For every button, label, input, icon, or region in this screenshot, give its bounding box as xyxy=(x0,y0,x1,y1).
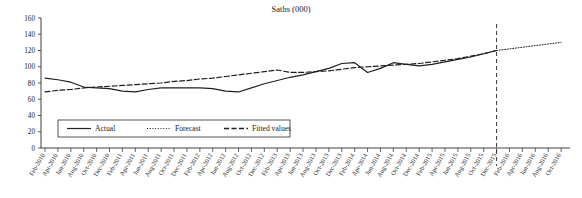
series-line-forecast xyxy=(497,42,562,50)
chart-legend: ActualForecastFitted values xyxy=(58,120,291,137)
y-tick-label: 120 xyxy=(24,47,35,55)
y-tick-label: 160 xyxy=(24,15,35,23)
y-tick-label: 140 xyxy=(24,31,35,39)
chart-title: Saths (000) xyxy=(272,4,311,14)
y-tick-label: 20 xyxy=(28,128,36,136)
legend-label-actual: Actual xyxy=(95,124,115,133)
y-tick-label: 100 xyxy=(24,63,35,71)
legend-label-fitted-values: Fitted values xyxy=(252,124,291,133)
y-tick-label: 0 xyxy=(31,145,35,153)
legend-label-forecast: Forecast xyxy=(175,124,202,133)
x-axis: Feb-2010Apr-2010Jun-2010Aug-2010Oct-2010… xyxy=(28,148,570,178)
y-tick-label: 60 xyxy=(28,96,36,104)
chart-canvas: Saths (000) 020406080100120140160 Feb-20… xyxy=(0,0,582,198)
series-line-fitted-values xyxy=(45,51,497,92)
y-axis: 020406080100120140160 xyxy=(24,15,41,153)
forecast-chart: Saths (000) 020406080100120140160 Feb-20… xyxy=(0,0,582,198)
y-tick-label: 80 xyxy=(28,80,36,88)
series-lines xyxy=(45,42,561,92)
y-tick-label: 40 xyxy=(28,112,36,120)
